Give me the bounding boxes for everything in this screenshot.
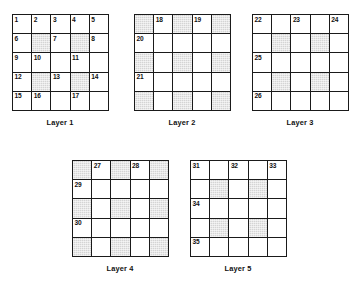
grid-cell-r2-c3[interactable] [229,180,248,199]
grid-cell-r4-c4[interactable] [249,219,268,238]
grid-cell-r5-c5[interactable] [268,238,287,257]
grid-cell-r1-c1[interactable]: 22 [253,15,272,34]
grid-cell-r3-c2[interactable] [210,199,229,218]
grid-cell-r3-c5[interactable] [268,199,287,218]
grid-cell-r4-c2[interactable] [272,73,291,92]
grid-cell-r3-c5[interactable] [212,53,231,72]
grid-cell-r4-c1[interactable] [191,219,210,238]
grid-cell-r3-c2[interactable]: 10 [32,53,51,72]
grid-cell-r4-c1[interactable]: 12 [13,73,32,92]
grid-cell-r2-c2[interactable] [272,34,291,53]
grid-cell-r4-c4[interactable] [193,73,212,92]
grid-cell-r3-c3[interactable] [229,199,248,218]
grid-cell-r1-c1[interactable] [73,161,92,180]
grid-cell-r1-c4[interactable] [249,161,268,180]
grid-cell-r4-c3[interactable] [229,219,248,238]
grid-cell-r1-c4[interactable]: 28 [131,161,150,180]
grid-cell-r2-c5[interactable] [330,34,349,53]
grid-cell-r1-c4[interactable] [311,15,330,34]
grid-cell-r3-c1[interactable]: 34 [191,199,210,218]
grid-cell-r1-c5[interactable]: 33 [268,161,287,180]
grid-cell-r1-c1[interactable]: 31 [191,161,210,180]
grid-cell-r1-c3[interactable] [111,161,130,180]
grid-cell-r2-c2[interactable] [32,34,51,53]
grid-cell-r2-c4[interactable] [71,34,90,53]
grid-cell-r2-c4[interactable] [131,180,150,199]
grid-cell-r4-c4[interactable] [311,73,330,92]
grid-cell-r1-c2[interactable]: 18 [154,15,173,34]
grid-cell-r5-c3[interactable] [291,92,310,111]
grid-cell-r1-c1[interactable]: 1 [13,15,32,34]
grid-cell-r4-c3[interactable] [291,73,310,92]
grid-cell-r5-c4[interactable] [193,92,212,111]
grid-cell-r2-c3[interactable] [111,180,130,199]
grid-cell-r2-c1[interactable]: 29 [73,180,92,199]
grid-cell-r1-c4[interactable]: 4 [71,15,90,34]
grid-cell-r2-c5[interactable] [212,34,231,53]
grid-cell-r2-c2[interactable] [154,34,173,53]
grid-cell-r5-c2[interactable] [154,92,173,111]
grid-cell-r5-c4[interactable] [249,238,268,257]
grid-cell-r3-c1[interactable]: 25 [253,53,272,72]
grid-cell-r3-c1[interactable] [73,199,92,218]
grid-cell-r3-c2[interactable] [92,199,111,218]
grid-cell-r2-c3[interactable] [291,34,310,53]
grid-cell-r5-c4[interactable]: 17 [71,92,90,111]
grid-cell-r5-c5[interactable] [330,92,349,111]
grid-cell-r4-c5[interactable] [212,73,231,92]
grid-cell-r5-c5[interactable] [90,92,109,111]
grid-cell-r5-c2[interactable] [272,92,291,111]
grid-cell-r3-c2[interactable] [272,53,291,72]
grid-cell-r3-c2[interactable] [154,53,173,72]
grid-cell-r3-c3[interactable] [51,53,70,72]
grid-cell-r1-c2[interactable]: 27 [92,161,111,180]
grid-cell-r3-c4[interactable] [249,199,268,218]
grid-cell-r1-c5[interactable]: 5 [90,15,109,34]
grid-cell-r3-c5[interactable] [150,199,169,218]
grid-cell-r4-c5[interactable]: 14 [90,73,109,92]
grid-cell-r1-c5[interactable]: 24 [330,15,349,34]
grid-cell-r2-c3[interactable] [173,34,192,53]
grid-cell-r2-c1[interactable]: 6 [13,34,32,53]
grid-cell-r3-c5[interactable] [330,53,349,72]
grid-cell-r4-c1[interactable]: 21 [135,73,154,92]
grid-cell-r4-c2[interactable] [154,73,173,92]
grid-cell-r5-c1[interactable]: 26 [253,92,272,111]
grid-cell-r3-c4[interactable] [311,53,330,72]
grid-cell-r5-c5[interactable] [150,238,169,257]
grid-cell-r3-c3[interactable] [173,53,192,72]
grid-cell-r4-c3[interactable]: 13 [51,73,70,92]
grid-cell-r2-c2[interactable] [92,180,111,199]
grid-cell-r5-c2[interactable] [210,238,229,257]
grid-cell-r5-c2[interactable]: 16 [32,92,51,111]
grid-cell-r2-c5[interactable] [268,180,287,199]
grid-cell-r1-c3[interactable]: 3 [51,15,70,34]
grid-cell-r5-c1[interactable]: 35 [191,238,210,257]
grid-cell-r4-c3[interactable] [111,219,130,238]
grid-cell-r4-c4[interactable] [131,219,150,238]
grid-cell-r1-c5[interactable] [150,161,169,180]
grid-cell-r5-c1[interactable]: 15 [13,92,32,111]
grid-cell-r2-c5[interactable] [150,180,169,199]
grid-cell-r2-c4[interactable] [193,34,212,53]
grid-cell-r5-c1[interactable] [135,92,154,111]
grid-cell-r4-c5[interactable] [268,219,287,238]
grid-cell-r4-c2[interactable] [210,219,229,238]
grid-cell-r3-c3[interactable] [111,199,130,218]
grid-cell-r3-c3[interactable] [291,53,310,72]
grid-cell-r1-c2[interactable]: 2 [32,15,51,34]
grid-cell-r5-c1[interactable] [73,238,92,257]
grid-cell-r5-c3[interactable] [229,238,248,257]
grid-cell-r1-c2[interactable] [210,161,229,180]
grid-cell-r3-c4[interactable]: 11 [71,53,90,72]
grid-cell-r5-c3[interactable] [111,238,130,257]
grid-cell-r5-c3[interactable] [51,92,70,111]
grid-cell-r1-c3[interactable] [173,15,192,34]
grid-cell-r5-c4[interactable] [131,238,150,257]
grid-cell-r2-c5[interactable]: 8 [90,34,109,53]
grid-cell-r2-c1[interactable] [191,180,210,199]
grid-cell-r4-c4[interactable] [71,73,90,92]
grid-cell-r4-c3[interactable] [173,73,192,92]
grid-cell-r2-c3[interactable]: 7 [51,34,70,53]
grid-cell-r1-c3[interactable]: 32 [229,161,248,180]
